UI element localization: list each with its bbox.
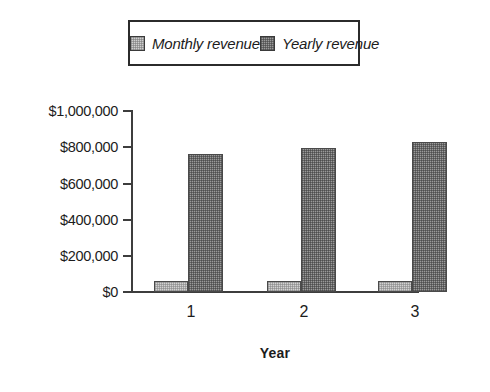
bar-monthly-year-3[interactable]: [378, 281, 412, 292]
x-tick-label-3: 3: [395, 303, 435, 321]
y-tick-label-800000: $800,000: [60, 139, 118, 155]
y-tick-mark-1000000: [123, 110, 132, 112]
chart-plot-area: $1,000,000 $800,000 $600,000 $400,000 $2…: [0, 0, 490, 392]
y-tick-label-400000: $400,000: [60, 212, 118, 228]
y-tick-mark-400000: [123, 219, 132, 221]
y-tick-mark-800000: [123, 146, 132, 148]
bar-yearly-year-2[interactable]: [301, 148, 336, 292]
bar-monthly-year-2[interactable]: [267, 281, 301, 292]
y-tick-label-0: $0: [102, 284, 118, 300]
bar-monthly-year-1[interactable]: [154, 281, 188, 292]
bar-yearly-year-1[interactable]: [188, 154, 223, 292]
y-tick-label-600000: $600,000: [60, 176, 118, 192]
x-tick-label-2: 2: [284, 303, 324, 321]
x-axis-title: Year: [131, 345, 419, 361]
y-tick-label-200000: $200,000: [60, 248, 118, 264]
y-tick-mark-600000: [123, 183, 132, 185]
y-tick-mark-200000: [123, 255, 132, 257]
y-tick-label-1000000: $1,000,000: [48, 103, 118, 119]
x-tick-label-1: 1: [171, 303, 211, 321]
y-tick-mark-0: [123, 291, 132, 293]
y-axis-line: [131, 110, 133, 293]
bar-yearly-year-3[interactable]: [412, 142, 447, 292]
